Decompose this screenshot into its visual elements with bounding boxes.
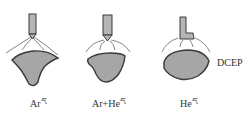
weld-bead-icon [12, 51, 58, 86]
gas-suffix: 气 [120, 98, 126, 104]
arc-lines-icon [86, 40, 130, 52]
weld-bead-icon [164, 50, 209, 80]
panel-label-he: He气 [180, 96, 198, 109]
panel-ar-he [86, 15, 130, 82]
electrode-tip-icon [103, 35, 112, 41]
gas-suffix: 气 [192, 98, 198, 104]
electrode-tip-icon [29, 34, 36, 39]
panel-he [162, 17, 210, 80]
electrode-icon [180, 17, 194, 39]
panel-label-ar-he: Ar+He气 [92, 96, 126, 109]
panel-label-ar: Ar气 [30, 96, 47, 109]
weld-bead-icon [88, 53, 125, 82]
electrode-icon [29, 14, 36, 34]
gas-name: Ar [30, 98, 41, 109]
gas-name: He [180, 98, 192, 109]
gas-name: Ar+He [92, 98, 120, 109]
polarity-label: DCEP [217, 57, 243, 68]
panel-ar [6, 14, 58, 86]
gas-suffix: 气 [41, 98, 47, 104]
electrode-icon [103, 15, 112, 35]
